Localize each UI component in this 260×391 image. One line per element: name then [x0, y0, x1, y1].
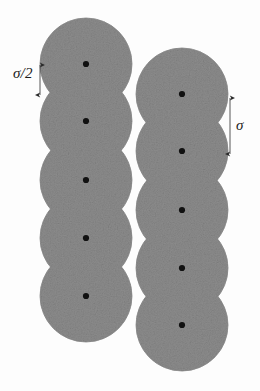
sphere-center-dot — [83, 235, 89, 241]
sigma-label: σ — [236, 118, 243, 133]
sphere-center-dot — [179, 265, 185, 271]
sphere-center-dot — [83, 293, 89, 299]
sphere-center-dot — [83, 61, 89, 67]
sigma-half-label: σ/2 — [13, 66, 33, 81]
sphere-chain-diagram — [0, 0, 260, 391]
sphere-center-dot — [179, 322, 185, 328]
sphere-center-dot — [83, 177, 89, 183]
sphere-center-dot — [179, 91, 185, 97]
sphere-center-dot — [83, 118, 89, 124]
sphere-center-dot — [179, 207, 185, 213]
figure-canvas: σ/2 σ — [0, 0, 260, 391]
sphere-center-dot — [179, 148, 185, 154]
